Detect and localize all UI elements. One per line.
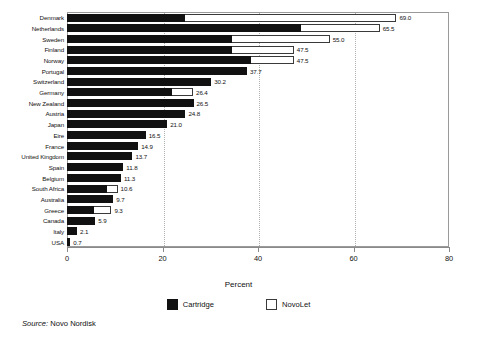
bar-row: Norway47.5 <box>67 55 449 66</box>
legend-item-novolet: NovoLet <box>266 299 310 310</box>
stacked-bar <box>67 35 330 43</box>
bar-segment-novolet <box>251 56 294 64</box>
bar-value-label: 2.1 <box>80 227 88 234</box>
category-label: Canada <box>43 217 64 224</box>
stacked-bar <box>67 142 138 150</box>
bar-value-label: 30.2 <box>214 78 226 85</box>
stacked-bar <box>67 206 111 214</box>
legend-label-novolet: NovoLet <box>282 300 310 309</box>
category-label: Italy <box>53 227 64 234</box>
bar-value-label: 11.8 <box>126 163 137 170</box>
bar-row: United Kingdom13.7 <box>67 151 449 162</box>
bar-row: Italy2.1 <box>67 226 449 237</box>
bar-segment-cartridge <box>67 120 167 128</box>
bar-segment-cartridge <box>67 227 77 235</box>
category-label: Switzerland <box>33 78 64 85</box>
category-label: Spain <box>49 163 64 170</box>
stacked-bar <box>67 56 294 64</box>
bar-value-label: 9.7 <box>116 195 124 202</box>
x-tick <box>67 247 68 252</box>
bar-value-label: 14.9 <box>141 142 153 149</box>
bar-row: Austria24.8 <box>67 108 449 119</box>
bar-row: Finland47.5 <box>67 44 449 55</box>
bar-segment-cartridge <box>67 67 247 75</box>
bar-value-label: 24.8 <box>188 110 200 117</box>
category-label: Austria <box>45 110 64 117</box>
bar-row: Belgium11.3 <box>67 172 449 183</box>
bar-row: Portugal37.7 <box>67 65 449 76</box>
bar-value-label: 55.0 <box>333 35 345 42</box>
stacked-bar <box>67 227 77 235</box>
bar-segment-novolet <box>301 24 380 32</box>
x-tick-label: 20 <box>158 254 166 263</box>
bar-row: New Zealand26.5 <box>67 97 449 108</box>
category-label: Denmark <box>40 14 64 21</box>
stacked-bar <box>67 120 167 128</box>
category-label: Greece <box>44 206 64 213</box>
x-tick-label: 60 <box>349 254 357 263</box>
bar-value-label: 65.5 <box>383 25 395 32</box>
bar-value-label: 16.5 <box>149 131 161 138</box>
category-label: Finland <box>44 46 64 53</box>
x-axis-title: Percent <box>0 280 477 289</box>
bar-segment-novolet <box>94 206 111 214</box>
bar-value-label: 69.0 <box>399 14 411 21</box>
bar-row: France14.9 <box>67 140 449 151</box>
bar-segment-cartridge <box>67 174 121 182</box>
x-tick-label: 80 <box>445 254 453 263</box>
bar-row: Spain11.8 <box>67 162 449 173</box>
category-label: New Zealand <box>29 99 64 106</box>
x-tick <box>354 247 355 252</box>
bar-segment-cartridge <box>67 46 232 54</box>
stacked-bar <box>67 238 70 246</box>
category-label: United Kingdom <box>21 153 64 160</box>
bar-segment-cartridge <box>67 110 185 118</box>
bar-segment-cartridge <box>67 14 185 22</box>
bar-segment-cartridge <box>67 99 194 107</box>
bar-row: Japan21.0 <box>67 119 449 130</box>
x-tick <box>163 247 164 252</box>
bar-segment-novolet <box>107 185 118 193</box>
stacked-bar <box>67 88 193 96</box>
bar-value-label: 13.7 <box>135 153 147 160</box>
bar-segment-cartridge <box>67 152 132 160</box>
bar-segment-novolet <box>232 35 330 43</box>
bar-value-label: 37.7 <box>250 67 262 74</box>
bar-segment-cartridge <box>67 56 251 64</box>
source-text: Novo Nordisk <box>50 319 96 328</box>
stacked-bar <box>67 163 123 171</box>
bar-row: USA0.7 <box>67 236 449 247</box>
chart-legend: Cartridge NovoLet <box>0 299 477 310</box>
bar-segment-cartridge <box>67 78 211 86</box>
stacked-bar <box>67 185 118 193</box>
category-label: Sweden <box>42 35 64 42</box>
bar-value-label: 10.6 <box>121 185 133 192</box>
category-label: Australia <box>41 195 64 202</box>
bar-row: South Africa10.6 <box>67 183 449 194</box>
bar-row: Netherlands65.5 <box>67 23 449 34</box>
bar-row: Eire16.5 <box>67 130 449 141</box>
x-tick-label: 0 <box>65 254 69 263</box>
stacked-bar <box>67 14 396 22</box>
bar-value-label: 11.3 <box>124 174 135 181</box>
bar-value-label: 26.4 <box>196 89 208 96</box>
x-tick-label: 40 <box>254 254 262 263</box>
legend-label-cartridge: Cartridge <box>183 300 214 309</box>
category-label: Netherlands <box>32 25 64 32</box>
category-label: South Africa <box>32 185 64 192</box>
source-prefix: Source: <box>22 319 48 328</box>
category-label: France <box>45 142 64 149</box>
bar-row: Canada5.9 <box>67 215 449 226</box>
bar-row: Greece9.3 <box>67 204 449 215</box>
stacked-bar <box>67 131 146 139</box>
bar-segment-cartridge <box>67 217 95 225</box>
stacked-bar <box>67 195 113 203</box>
bar-value-label: 21.0 <box>170 121 182 128</box>
bar-segment-novolet <box>172 88 193 96</box>
bar-row: Australia9.7 <box>67 194 449 205</box>
bar-value-label: 5.9 <box>98 217 106 224</box>
bar-segment-cartridge <box>67 35 232 43</box>
bar-segment-cartridge <box>67 163 123 171</box>
bar-segment-cartridge <box>67 131 146 139</box>
category-label: Belgium <box>42 174 64 181</box>
